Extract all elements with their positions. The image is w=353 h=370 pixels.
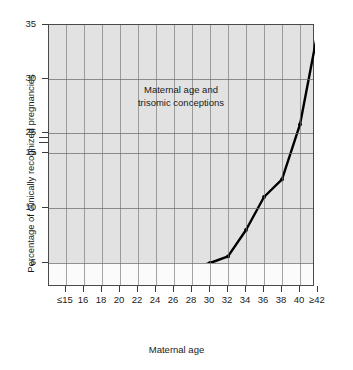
x-tick-mark-16 (83, 286, 84, 292)
x-tick-mark-24 (155, 286, 156, 292)
gridline-10 (49, 208, 313, 209)
gridline-x-16 (84, 25, 85, 285)
x-tick-mark-26 (173, 286, 174, 292)
gridline-x-20 (120, 25, 121, 285)
y-axis-title: Percentage of clinically recognized preg… (25, 24, 36, 324)
x-tick-mark-36 (263, 286, 264, 292)
x-tick-mark-≤15 (65, 286, 66, 292)
y-tick-label-30: 30 (2, 73, 36, 83)
y-tick-label-25: 25 (2, 127, 36, 137)
gridline-5 (49, 263, 313, 264)
x-tick-mark-34 (245, 286, 246, 292)
gridline-x-38 (282, 25, 283, 285)
x-tick-mark-22 (137, 286, 138, 292)
trisomy-line (66, 30, 315, 282)
gridline-x-40 (300, 25, 301, 285)
gridline-x-30 (210, 25, 211, 285)
gridline-15 (49, 153, 313, 154)
x-tick-mark-40 (299, 286, 300, 292)
data-series-line (49, 25, 315, 287)
x-axis-title: Maternal age (0, 344, 353, 355)
low-value-band (49, 263, 313, 285)
gridline-x-32 (228, 25, 229, 285)
x-tick-mark-≥42 (317, 286, 318, 292)
gridline-x-18 (102, 25, 103, 285)
gridline-x-36 (264, 25, 265, 285)
gridline-30 (49, 79, 313, 80)
gridline-x-28 (192, 25, 193, 285)
x-tick-mark-38 (281, 286, 282, 292)
x-tick-mark-28 (191, 286, 192, 292)
annotation-line-1: Maternal age and (48, 84, 314, 97)
gridline-x-24 (156, 25, 157, 285)
y-tick-label-35: 35 (2, 19, 36, 29)
x-tick-mark-30 (209, 286, 210, 292)
gridline-x-34 (246, 25, 247, 285)
y-tick-label-5: 5 (2, 257, 36, 267)
x-tick-mark-32 (227, 286, 228, 292)
annotation-line-2: trisomic conceptions (48, 97, 314, 110)
gridline-25 (49, 133, 313, 134)
gridline-x-22 (138, 25, 139, 285)
gridline-x-26 (174, 25, 175, 285)
plot-area (48, 24, 314, 286)
x-tick-mark-18 (101, 286, 102, 292)
x-tick-label-≥42: ≥42 (297, 295, 337, 305)
chart-annotation: Maternal age and trisomic conceptions (48, 84, 314, 109)
y-tick-label-10: 10 (2, 202, 36, 212)
gridline-x-15 (66, 25, 67, 285)
chart-figure: Percentage of clinically recognized preg… (0, 0, 353, 370)
y-tick-label-15: 15 (2, 147, 36, 157)
x-tick-mark-20 (119, 286, 120, 292)
